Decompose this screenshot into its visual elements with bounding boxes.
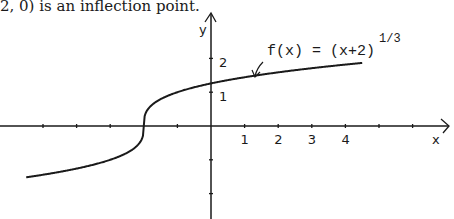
- x-axis-label: x: [432, 132, 440, 147]
- x-tick-label: 1: [241, 132, 249, 147]
- y-axis-label: y: [199, 22, 207, 37]
- y-tick-label: 2: [219, 55, 227, 70]
- y-tick-label: 1: [219, 89, 227, 104]
- function-label: f(x) = (x+2): [267, 43, 375, 60]
- function-curve: [26, 63, 362, 177]
- x-tick-label: 4: [341, 132, 349, 147]
- function-exponent: 1/3: [379, 32, 401, 46]
- x-tick-label: 3: [308, 132, 316, 147]
- function-graph: 123412 f(x) = (x+2) 1/3 x y: [0, 0, 454, 219]
- x-tick-label: 2: [274, 132, 282, 147]
- tick-labels: 123412: [219, 55, 350, 147]
